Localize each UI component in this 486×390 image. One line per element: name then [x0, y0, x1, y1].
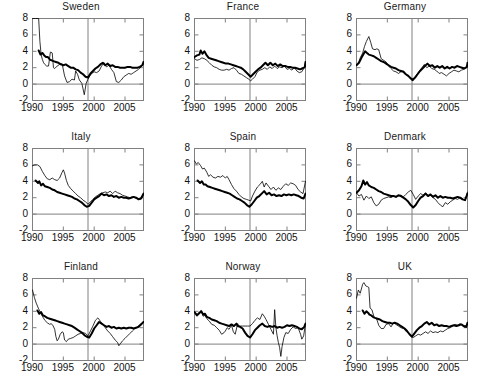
- panel-grid: Sweden-2024681990199520002005France-2024…: [0, 0, 486, 390]
- x-axis-tick-label: 2000: [403, 362, 433, 373]
- series-line-thick: [37, 310, 143, 337]
- y-axis-tick-label: 6: [14, 28, 28, 39]
- x-axis-tick-label: 1995: [210, 232, 240, 243]
- y-axis-tick-label: 2: [176, 61, 190, 72]
- y-axis-tick-label: 2: [14, 61, 28, 72]
- x-axis-tick-label: 2000: [79, 232, 109, 243]
- x-axis-tick-label: 1995: [372, 232, 402, 243]
- x-axis-tick-label: 1990: [17, 232, 47, 243]
- chart-panel-spain: Spain-2024681990199520002005: [162, 130, 324, 260]
- x-axis-tick-label: 2005: [272, 362, 302, 373]
- x-axis-tick-label: 1990: [341, 102, 371, 113]
- plot-area: [194, 18, 305, 100]
- y-axis-tick-label: 4: [338, 45, 352, 56]
- plot-area: [194, 148, 305, 230]
- x-axis-tick-label: 2000: [79, 362, 109, 373]
- chart-panel-italy: Italy-2024681990199520002005: [0, 130, 162, 260]
- x-axis-tick-label: 1995: [372, 362, 402, 373]
- y-axis-tick-label: 0: [338, 78, 352, 89]
- plot-area: [356, 148, 467, 230]
- x-axis-tick-label: 1990: [179, 362, 209, 373]
- y-axis-tick-label: 8: [176, 12, 190, 23]
- y-axis-tick-label: 4: [176, 305, 190, 316]
- x-axis-tick-label: 1990: [17, 362, 47, 373]
- y-axis-tick-label: 0: [14, 208, 28, 219]
- x-axis-tick-label: 2005: [434, 102, 464, 113]
- y-axis-tick-label: 6: [14, 158, 28, 169]
- x-axis-tick-label: 2000: [79, 102, 109, 113]
- x-axis-tick-label: 2000: [241, 232, 271, 243]
- x-axis-tick-label: 2005: [110, 232, 140, 243]
- x-axis-tick-label: 2005: [272, 102, 302, 113]
- y-axis-tick-label: 2: [14, 191, 28, 202]
- x-axis-tick-label: 1995: [210, 102, 240, 113]
- x-axis-tick-label: 2005: [110, 102, 140, 113]
- y-axis-tick-label: 6: [176, 288, 190, 299]
- panel-title: Norway: [162, 261, 324, 272]
- y-axis-tick-label: 0: [176, 78, 190, 89]
- y-axis-tick-label: 6: [14, 288, 28, 299]
- y-axis-tick-label: 8: [338, 142, 352, 153]
- x-axis-tick-label: 2000: [241, 102, 271, 113]
- x-axis-tick-label: 1990: [179, 102, 209, 113]
- x-axis-tick-label: 2005: [434, 362, 464, 373]
- y-axis-tick-label: 6: [338, 28, 352, 39]
- panel-title: Italy: [0, 131, 162, 142]
- x-axis-tick-label: 1995: [48, 232, 78, 243]
- chart-panel-germany: Germany-2024681990199520002005: [324, 0, 486, 130]
- y-axis-tick-label: 8: [14, 12, 28, 23]
- y-axis-tick-label: 0: [14, 338, 28, 349]
- panel-title: Finland: [0, 261, 162, 272]
- x-axis-tick-label: 2000: [241, 362, 271, 373]
- x-axis-tick-label: 2005: [272, 232, 302, 243]
- y-axis-tick-label: 2: [176, 321, 190, 332]
- y-axis-tick-label: 4: [338, 175, 352, 186]
- x-axis-tick-label: 1995: [210, 362, 240, 373]
- y-axis-tick-label: 4: [176, 45, 190, 56]
- chart-panel-sweden: Sweden-2024681990199520002005: [0, 0, 162, 130]
- y-axis-tick-label: 0: [14, 78, 28, 89]
- chart-panel-france: France-2024681990199520002005: [162, 0, 324, 130]
- y-axis-tick-label: 4: [176, 175, 190, 186]
- plot-area: [32, 18, 143, 100]
- panel-title: Germany: [324, 1, 486, 12]
- chart-panel-finland: Finland-2024681990199520002005: [0, 260, 162, 390]
- x-axis-tick-label: 1990: [17, 102, 47, 113]
- panel-title: UK: [324, 261, 486, 272]
- panel-title: France: [162, 1, 324, 12]
- y-axis-tick-label: 8: [14, 272, 28, 283]
- y-axis-tick-label: 4: [338, 305, 352, 316]
- plot-area: [356, 18, 467, 100]
- y-axis-tick-label: 2: [338, 191, 352, 202]
- x-axis-tick-label: 2000: [403, 232, 433, 243]
- y-axis-tick-label: 6: [338, 288, 352, 299]
- x-axis-tick-label: 2005: [434, 232, 464, 243]
- x-axis-tick-label: 2005: [110, 362, 140, 373]
- plot-area: [32, 148, 143, 230]
- y-axis-tick-label: 2: [176, 191, 190, 202]
- x-axis-tick-label: 1990: [341, 232, 371, 243]
- y-axis-tick-label: 6: [176, 158, 190, 169]
- y-axis-tick-label: 0: [338, 208, 352, 219]
- series-line-thick: [39, 50, 144, 77]
- chart-panel-uk: UK-2024681990199520002005: [324, 260, 486, 390]
- y-axis-tick-label: 0: [176, 208, 190, 219]
- x-axis-tick-label: 1995: [48, 362, 78, 373]
- x-axis-tick-label: 1990: [179, 232, 209, 243]
- y-axis-tick-label: 2: [338, 61, 352, 72]
- chart-panel-denmark: Denmark-2024681990199520002005: [324, 130, 486, 260]
- y-axis-tick-label: 0: [338, 338, 352, 349]
- x-axis-tick-label: 2000: [403, 102, 433, 113]
- y-axis-tick-label: 6: [338, 158, 352, 169]
- y-axis-tick-label: 8: [14, 142, 28, 153]
- plot-area: [194, 278, 305, 360]
- panel-title: Denmark: [324, 131, 486, 142]
- y-axis-tick-label: 4: [14, 175, 28, 186]
- y-axis-tick-label: 0: [176, 338, 190, 349]
- y-axis-tick-label: 8: [338, 272, 352, 283]
- y-axis-tick-label: 4: [14, 305, 28, 316]
- chart-panel-norway: Norway-2024681990199520002005: [162, 260, 324, 390]
- y-axis-tick-label: 6: [176, 28, 190, 39]
- y-axis-tick-label: 8: [176, 272, 190, 283]
- plot-area: [356, 278, 467, 360]
